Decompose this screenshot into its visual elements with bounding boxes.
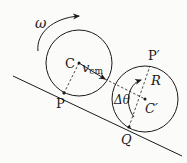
angle-label: Δθ [113,93,131,107]
center-dot-c [78,62,81,65]
rolling-ball-diagram: ω C vcm P P′ R Δθ C′ Q [0,0,187,163]
radius-qp-dashed [129,66,150,127]
contact-dot-p [62,91,65,94]
velocity-label: vcm [82,60,103,76]
radius-label-r: R [150,73,161,88]
contact-label-q: Q [121,132,132,147]
top-label-p-prime: P′ [148,48,160,63]
incline-line [13,76,182,156]
center-label-c: C [65,56,75,71]
contact-dot-q [127,125,130,128]
angle-arc-arrow [128,80,141,117]
center-label-c-prime: C′ [145,101,158,116]
contact-label-p: P [56,96,65,111]
omega-label: ω [35,15,47,31]
